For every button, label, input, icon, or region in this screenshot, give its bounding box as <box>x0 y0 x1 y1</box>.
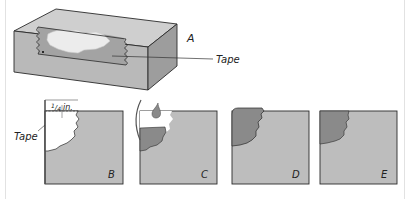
panel-c-label: C <box>201 169 208 180</box>
wall-section-box <box>14 9 213 90</box>
box-tape-label: Tape <box>216 54 240 65</box>
panel-e-label: E <box>381 169 388 180</box>
panel-d-label: D <box>292 169 300 180</box>
panel-b-label: B <box>108 169 115 180</box>
panel-b-tape-label: Tape <box>14 131 38 142</box>
box-label-a: A <box>186 32 195 45</box>
drywall-repair-diagram: A Tape 1/4in. Tape B C D <box>0 0 414 199</box>
